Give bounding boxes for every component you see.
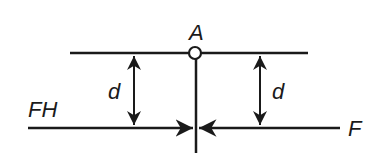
lever-diagram: A d d FH F	[0, 0, 382, 162]
pivot-circle-icon	[189, 47, 201, 59]
pivot-label: A	[187, 20, 204, 45]
right-distance-label: d	[272, 79, 285, 104]
diagram-svg: A d d FH F	[0, 0, 382, 162]
left-distance-label: d	[108, 79, 121, 104]
left-force-label: FH	[28, 97, 57, 122]
right-force-label: F	[348, 116, 363, 141]
